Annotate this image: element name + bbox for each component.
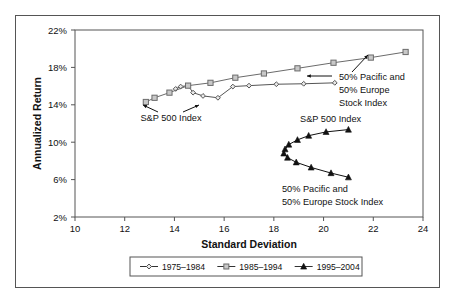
annotation-pacific-europe-line3: Stock Index — [339, 98, 387, 108]
data-point-marker — [167, 90, 172, 95]
y-axis-tick-label-22: 22% — [48, 25, 68, 36]
data-point-marker — [186, 83, 191, 88]
data-point-marker — [368, 55, 373, 60]
annotation-sp500-left: S&P 500 Index — [140, 113, 202, 123]
annotation-sp500-right: S&P 500 Index — [300, 114, 362, 124]
chart-figure: 1012141618202224Standard Deviation2%6%10… — [0, 0, 457, 298]
x-axis-tick-label-20: 20 — [318, 223, 329, 234]
y-axis-tick-label-10: 10% — [48, 137, 68, 148]
legend-label-1: 1985–1994 — [239, 262, 282, 272]
x-axis-tick-label-16: 16 — [219, 223, 230, 234]
data-point-marker — [152, 95, 157, 100]
scatter-chart-svg: 1012141618202224Standard Deviation2%6%10… — [0, 0, 457, 298]
x-axis-title: Standard Deviation — [201, 238, 297, 250]
annotation-pe-bottom-line2: 50% Europe Stock Index — [282, 197, 384, 207]
annotation-pe-bottom-line1: 50% Pacific and — [282, 184, 348, 194]
x-axis-tick-label-24: 24 — [418, 223, 429, 234]
data-point-marker — [208, 80, 213, 85]
data-point-marker — [233, 75, 238, 80]
data-point-marker — [331, 60, 336, 65]
legend-marker-square-icon — [224, 264, 229, 269]
annotation-pacific-europe-line1: 50% Pacific and — [339, 72, 405, 82]
y-axis-title: Annualized Return — [31, 77, 43, 170]
x-axis-tick-label-14: 14 — [169, 223, 180, 234]
data-point-marker — [295, 66, 300, 71]
data-point-marker — [261, 71, 266, 76]
y-axis-tick-label-6: 6% — [53, 174, 67, 185]
data-point-marker — [143, 99, 148, 104]
data-point-marker — [403, 49, 408, 54]
x-axis-tick-label-18: 18 — [269, 223, 280, 234]
y-axis-tick-label-14: 14% — [48, 99, 68, 110]
y-axis-tick-label-2: 2% — [53, 212, 67, 223]
legend-label-0: 1975–1984 — [162, 262, 205, 272]
x-axis-tick-label-10: 10 — [70, 223, 81, 234]
x-axis-tick-label-12: 12 — [119, 223, 130, 234]
y-axis-tick-label-18: 18% — [48, 62, 68, 73]
annotation-pacific-europe-line2: 50% Europe — [339, 85, 390, 95]
x-axis-tick-label-22: 22 — [368, 223, 379, 234]
legend-label-2: 1995–2004 — [317, 262, 360, 272]
